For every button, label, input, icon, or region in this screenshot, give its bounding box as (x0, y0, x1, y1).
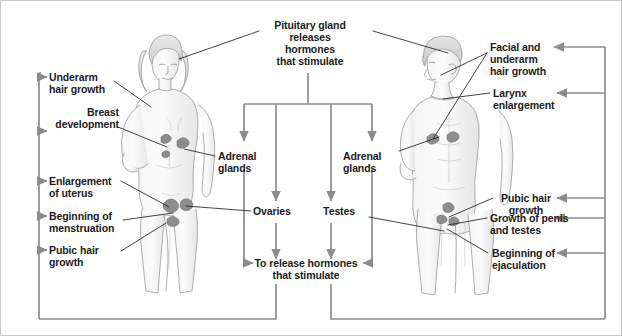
puberty-hormone-diagram: Pituitary gland releases hormones that s… (0, 0, 622, 336)
female-effect-breast-development: Breast development (45, 106, 119, 130)
male-effect-facial-underarm-hair: Facial and underarm hair growth (490, 41, 556, 77)
male-effect-larynx-enlargement: Larynx enlargement (493, 87, 559, 111)
male-effect-ejaculation: Beginning of ejaculation (492, 247, 566, 271)
male-effect-penis-testes-growth: Growth of penis and testes (490, 212, 572, 236)
ovaries-label: Ovaries (253, 205, 301, 217)
female-effect-menstruation: Beginning of menstruation (49, 210, 127, 234)
female-effect-pubic-hair: Pubic hair growth (49, 244, 119, 268)
gonad-to-release-connector (276, 223, 331, 259)
testes-label: Testes (307, 205, 355, 217)
release-hormones-box: To release hormones that stimulate (247, 257, 365, 281)
female-body-illustration (104, 25, 234, 297)
pituitary-branch-connector (244, 73, 372, 201)
adrenal-glands-right-label: Adrenal glands (343, 150, 395, 174)
male-effects-bracket (554, 47, 605, 319)
female-effect-underarm-hair: Underarm hair growth (49, 71, 119, 95)
adrenal-glands-left-label: Adrenal glands (218, 150, 268, 174)
pituitary-gland-box: Pituitary gland releases hormones that s… (251, 19, 369, 67)
female-effect-uterus-enlargement: Enlargement of uterus (49, 175, 123, 199)
